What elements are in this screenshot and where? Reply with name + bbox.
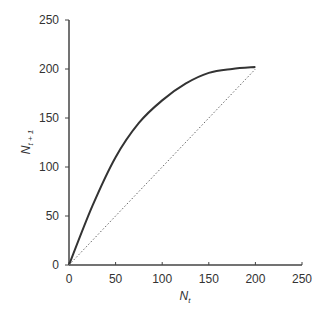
x-tick-label: 50	[109, 272, 123, 286]
x-tick-label: 250	[292, 272, 312, 286]
x-tick-label: 200	[245, 272, 265, 286]
y-tick-label: 250	[39, 13, 59, 27]
y-tick-label: 150	[39, 111, 59, 125]
chart: 050100150200250050100150200250 Nt Nt + 1	[0, 0, 325, 316]
y-tick-label: 50	[46, 209, 60, 223]
x-axis-label: Nt	[180, 289, 192, 305]
recruitment-curve	[69, 67, 255, 265]
x-tick-label: 0	[66, 272, 73, 286]
replacement-line	[69, 69, 255, 265]
axes: 050100150200250050100150200250	[39, 13, 312, 286]
y-axis-label: Nt + 1	[19, 130, 35, 154]
x-tick-label: 150	[199, 272, 219, 286]
y-tick-label: 100	[39, 160, 59, 174]
x-tick-label: 100	[152, 272, 172, 286]
y-tick-label: 200	[39, 62, 59, 76]
y-tick-label: 0	[52, 258, 59, 272]
